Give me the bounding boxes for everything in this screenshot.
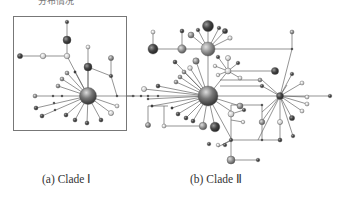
- haplotype-network-figure: [0, 0, 341, 198]
- panel-a-nodes: [17, 20, 134, 125]
- panel-b-nodes: [140, 21, 332, 165]
- panel-b-network: [127, 26, 330, 160]
- caption-panel-a: (a) Clade Ⅰ: [42, 172, 91, 186]
- caption-panel-b: (b) Clade Ⅱ: [190, 172, 242, 186]
